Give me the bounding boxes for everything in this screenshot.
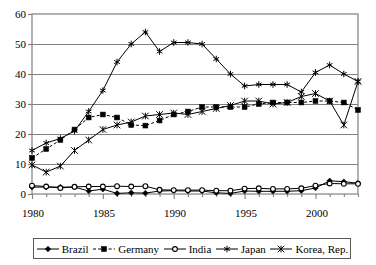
legend-marker-star-icon bbox=[215, 243, 239, 255]
legend-item-korea-rep[interactable]: Korea, Rep. bbox=[269, 243, 348, 255]
legend-item-label: Germany bbox=[118, 243, 159, 255]
legend-item-brazil[interactable]: Brazil bbox=[36, 243, 89, 255]
plot-area bbox=[0, 0, 376, 265]
series-germany bbox=[30, 99, 361, 161]
legend-marker-square-icon bbox=[92, 243, 116, 255]
legend-marker-diamond-icon bbox=[36, 243, 60, 255]
legend-item-label: India bbox=[189, 243, 212, 255]
legend-item-label: Brazil bbox=[62, 243, 89, 255]
series-korea-rep bbox=[29, 78, 362, 175]
legend: BrazilGermanyIndiaJapanKorea, Rep. bbox=[33, 238, 351, 259]
legend-item-label: Korea, Rep. bbox=[295, 243, 348, 255]
legend-item-japan[interactable]: Japan bbox=[215, 243, 266, 255]
chart-container: 60 50 40 30 20 10 0 1980 1985 1990 1995 … bbox=[0, 0, 376, 265]
legend-item-label: Japan bbox=[241, 243, 266, 255]
legend-marker-circle-icon bbox=[163, 243, 187, 255]
legend-marker-cross-icon bbox=[269, 243, 293, 255]
legend-item-india[interactable]: India bbox=[163, 243, 212, 255]
legend-item-germany[interactable]: Germany bbox=[92, 243, 159, 255]
